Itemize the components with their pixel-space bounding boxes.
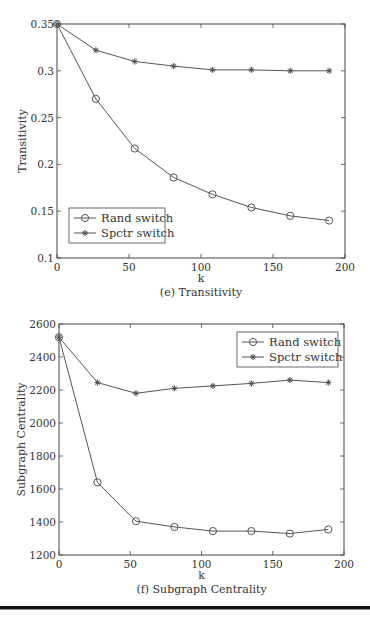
y-tick-label: 2000 xyxy=(29,417,56,429)
star-marker xyxy=(132,58,138,64)
x-axis-label: k xyxy=(198,569,205,582)
legend-label: Rand switch xyxy=(269,335,342,349)
series-spctr-switch xyxy=(54,21,332,74)
y-tick-label: 0.35 xyxy=(31,18,54,30)
x-tick-label: 0 xyxy=(56,558,63,570)
legend-star-icon xyxy=(250,354,256,360)
star-marker xyxy=(56,334,62,340)
y-tick-label: 2200 xyxy=(29,384,56,396)
legend-label: Spctr switch xyxy=(269,350,343,364)
y-tick-label: 2400 xyxy=(29,351,56,363)
transitivity-chart: 0501001502000.10.150.20.250.30.35k(e) Tr… xyxy=(16,18,355,299)
legend-label: Rand switch xyxy=(101,211,174,225)
y-axis-label: Transitivity xyxy=(16,108,29,172)
star-marker xyxy=(210,383,216,389)
star-marker xyxy=(326,68,332,74)
legend: Rand switchSpctr switch xyxy=(69,208,175,243)
y-tick-label: 1800 xyxy=(29,450,56,462)
y-tick-label: 0.15 xyxy=(31,205,54,217)
y-tick-label: 0.1 xyxy=(37,252,54,264)
y-tick-label: 0.25 xyxy=(31,112,54,124)
x-tick-label: 50 xyxy=(124,558,137,570)
y-tick-label: 1600 xyxy=(29,483,56,495)
star-marker xyxy=(248,67,254,73)
chart-caption: (e) Transitivity xyxy=(160,286,243,299)
star-marker xyxy=(171,63,177,69)
star-marker xyxy=(248,380,254,386)
y-tick-label: 1400 xyxy=(29,516,56,528)
star-marker xyxy=(133,390,139,396)
y-axis-label: Subgraph Centrality xyxy=(15,382,28,497)
star-marker xyxy=(94,380,100,386)
x-tick-label: 50 xyxy=(122,261,135,273)
y-tick-label: 0.2 xyxy=(37,158,54,170)
x-axis-label: k xyxy=(198,272,205,285)
star-marker xyxy=(93,47,99,53)
legend-label: Spctr switch xyxy=(101,226,175,240)
star-marker xyxy=(171,385,177,391)
star-marker xyxy=(54,21,60,27)
x-tick-label: 200 xyxy=(335,261,355,273)
chart-caption: (f) Subgraph Centrality xyxy=(136,583,267,596)
legend: Rand switchSpctr switch xyxy=(237,332,343,367)
x-tick-label: 150 xyxy=(263,261,283,273)
subgraph-centrality-chart: 0501001502001200140016001800200022002400… xyxy=(15,318,354,596)
y-tick-label: 1200 xyxy=(29,549,56,561)
x-tick-label: 150 xyxy=(263,558,283,570)
star-marker xyxy=(210,67,216,73)
star-marker xyxy=(287,377,293,383)
legend-star-icon xyxy=(82,230,88,236)
y-tick-label: 0.3 xyxy=(37,65,54,77)
x-tick-label: 200 xyxy=(334,558,354,570)
figure-canvas: 0501001502000.10.150.20.250.30.35k(e) Tr… xyxy=(0,0,370,628)
star-marker xyxy=(325,380,331,386)
x-tick-label: 0 xyxy=(54,261,61,273)
page-rule xyxy=(0,606,370,610)
star-marker xyxy=(287,68,293,74)
y-tick-label: 2600 xyxy=(29,318,56,330)
